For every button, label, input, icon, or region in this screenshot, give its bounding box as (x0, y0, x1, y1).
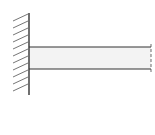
beam-body (29, 47, 151, 69)
cantilever-beam-diagram (0, 0, 155, 135)
wall-hatching (13, 14, 28, 91)
diagram-svg (0, 0, 155, 135)
